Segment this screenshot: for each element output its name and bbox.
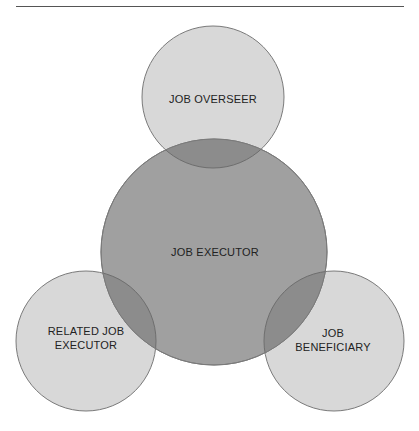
label-job-overseer: JOB OVERSEER: [169, 92, 257, 106]
label-job-beneficiary: JOB BENEFICIARY: [295, 326, 370, 354]
venn-diagram: [0, 0, 419, 431]
label-job-executor: JOB EXECUTOR: [171, 245, 259, 259]
label-related-job-executor: RELATED JOB EXECUTOR: [48, 324, 125, 352]
